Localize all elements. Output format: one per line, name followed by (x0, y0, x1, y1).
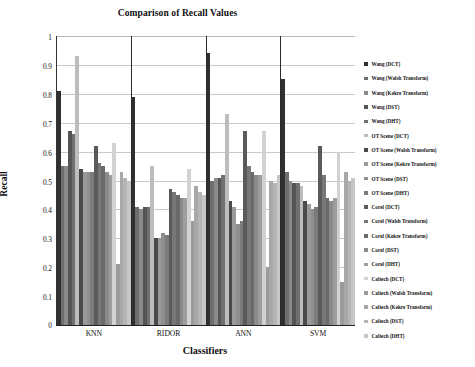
legend-item[interactable]: OT Scene (Walsh Transform) (364, 143, 475, 157)
legend-item[interactable]: Caltech (Kekre Transform) (364, 300, 475, 314)
legend-label: Caltech (DST) (372, 318, 404, 324)
y-axis-tick-label: 0.4 (43, 206, 52, 215)
legend-item[interactable]: Corel (DST) (364, 243, 475, 257)
bar-group-ridor: RIDOR (132, 36, 207, 325)
legend-swatch-icon (364, 191, 368, 195)
legend-label: Caltech (Kekre Transform) (372, 304, 433, 310)
legend-label: Corel (DST) (372, 247, 399, 253)
legend-label: Caltech (Walsh Transform) (372, 290, 433, 296)
y-axis-tick-label: 0.1 (43, 293, 52, 302)
legend-label: OT Scene (DCT) (372, 133, 409, 139)
legend-swatch-icon (364, 277, 368, 281)
y-axis-tick-label: 0.7 (43, 119, 52, 128)
legend-item[interactable]: Corel (DCT) (364, 200, 475, 214)
legend-item[interactable]: Wang (Walsh Transform) (364, 71, 475, 85)
bar-group-ann: ANN (207, 36, 282, 325)
x-axis-group-label: ANN (207, 329, 281, 338)
legend-item[interactable]: Wang (Kekre Transform) (364, 86, 475, 100)
legend-item[interactable]: Corel (Kekre Transform) (364, 229, 475, 243)
y-axis-tick-label: 0.9 (43, 61, 52, 70)
legend-swatch-icon (364, 248, 368, 252)
legend-label: Wang (Kekre Transform) (372, 90, 428, 96)
legend-swatch-icon (364, 134, 368, 138)
chart-title: Comparison of Recall Values (0, 8, 355, 18)
legend-swatch-icon (364, 177, 368, 181)
legend-swatch-icon (364, 120, 368, 124)
legend-swatch-icon (364, 91, 368, 95)
legend-item[interactable]: OT Scene (DCT) (364, 128, 475, 142)
legend-item[interactable]: Wang (DCT) (364, 57, 475, 71)
x-axis-group-label: KNN (57, 329, 131, 338)
legend-item[interactable]: Caltech (DCT) (364, 271, 475, 285)
legend-label: OT Scene (Walsh Transform) (372, 147, 437, 153)
legend-item[interactable]: Caltech (DHT) (364, 329, 475, 343)
legend-label: Wang (DCT) (372, 61, 401, 67)
legend-item[interactable]: OT Scene (DHT) (364, 186, 475, 200)
legend-item[interactable]: Corel (Walsh Transform) (364, 214, 475, 228)
legend-swatch-icon (364, 320, 368, 324)
legend-label: Corel (Walsh Transform) (372, 218, 428, 224)
y-axis-tick-label: 0.6 (43, 148, 52, 157)
x-axis-group-label: RIDOR (132, 329, 206, 338)
legend-label: OT Scene (DST) (372, 176, 408, 182)
y-axis-title: Recall (0, 171, 9, 196)
legend-item[interactable]: Wang (DHT) (364, 114, 475, 128)
legend-swatch-icon (364, 220, 368, 224)
y-axis-tick-label: 1 (48, 33, 52, 42)
x-axis-title: Classifiers (56, 345, 354, 356)
plot-area: 10.90.80.70.60.50.40.30.20.10 KNNRIDORAN… (56, 36, 355, 326)
legend-swatch-icon (364, 305, 368, 309)
legend-item[interactable]: Caltech (DST) (364, 314, 475, 328)
legend-swatch-icon (364, 291, 368, 295)
bar (127, 181, 131, 326)
legend-item[interactable]: OT Scene (Kekre Transform) (364, 157, 475, 171)
legend: Wang (DCT)Wang (Walsh Transform)Wang (Ke… (364, 57, 475, 343)
legend-label: Corel (DHT) (372, 261, 400, 267)
legend-swatch-icon (364, 148, 368, 152)
legend-label: Corel (Kekre Transform) (372, 233, 428, 239)
legend-swatch-icon (364, 334, 368, 338)
bar (277, 175, 281, 325)
bar (351, 178, 355, 325)
legend-swatch-icon (364, 162, 368, 166)
legend-swatch-icon (364, 105, 368, 109)
legend-label: Caltech (DCT) (372, 276, 405, 282)
y-axis-tick-label: 0.2 (43, 264, 52, 273)
bar-groups: KNNRIDORANNSVM (57, 36, 355, 325)
legend-label: Wang (DST) (372, 104, 400, 110)
y-axis-tick-label: 0 (48, 321, 52, 330)
bar-group-knn: KNN (57, 36, 132, 325)
legend-swatch-icon (364, 234, 368, 238)
y-axis-tick-label: 0.8 (43, 90, 52, 99)
bar-group-svm: SVM (281, 36, 355, 325)
legend-item[interactable]: Corel (DHT) (364, 257, 475, 271)
legend-swatch-icon (364, 77, 368, 81)
y-axis-tick-label: 0.3 (43, 235, 52, 244)
legend-swatch-icon (364, 205, 368, 209)
legend-swatch-icon (364, 263, 368, 267)
legend-label: Caltech (DHT) (372, 333, 405, 339)
legend-label: Wang (DHT) (372, 118, 401, 124)
legend-item[interactable]: Caltech (Walsh Transform) (364, 286, 475, 300)
recall-comparison-chart: Comparison of Recall Values Recall 10.90… (0, 0, 475, 367)
legend-label: OT Scene (Kekre Transform) (372, 161, 437, 167)
legend-swatch-icon (364, 62, 368, 66)
legend-item[interactable]: OT Scene (DST) (364, 171, 475, 185)
legend-label: Wang (Walsh Transform) (372, 75, 429, 81)
y-axis-tick-label: 0.5 (43, 177, 52, 186)
legend-label: OT Scene (DHT) (372, 190, 409, 196)
bar (202, 195, 206, 325)
legend-item[interactable]: Wang (DST) (364, 100, 475, 114)
legend-label: Corel (DCT) (372, 204, 400, 210)
x-axis-group-label: SVM (281, 329, 355, 338)
